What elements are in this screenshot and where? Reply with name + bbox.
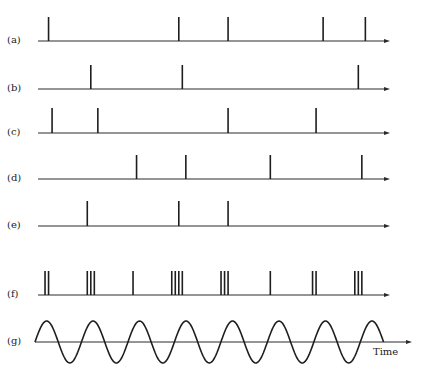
row-label-e: (e) bbox=[7, 219, 21, 230]
row-label-c: (c) bbox=[7, 126, 21, 137]
arrowhead-icon bbox=[406, 340, 412, 344]
arrowhead-icon bbox=[384, 293, 390, 297]
row-label-b: (b) bbox=[7, 82, 21, 93]
row-label-g: (g) bbox=[7, 335, 21, 346]
spike-train-c bbox=[38, 108, 390, 135]
arrowhead-icon bbox=[384, 87, 390, 91]
arrowhead-icon bbox=[384, 39, 390, 43]
oscillation-g bbox=[35, 321, 412, 363]
spike-train-figure: (a) (b) (c) (d) (e) (f) (g) Time bbox=[0, 0, 429, 386]
arrowhead-icon bbox=[384, 131, 390, 135]
arrowhead-icon bbox=[384, 177, 390, 181]
row-label-d: (d) bbox=[7, 172, 21, 183]
spike-train-a bbox=[38, 17, 390, 43]
arrowhead-icon bbox=[384, 224, 390, 228]
spike-train-e bbox=[38, 201, 390, 228]
spike-train-f bbox=[38, 271, 390, 297]
row-label-f: (f) bbox=[7, 288, 19, 299]
spike-train-b bbox=[38, 65, 390, 91]
time-axis-label: Time bbox=[373, 346, 398, 357]
row-label-a: (a) bbox=[7, 34, 21, 45]
spike-train-d bbox=[38, 155, 390, 181]
